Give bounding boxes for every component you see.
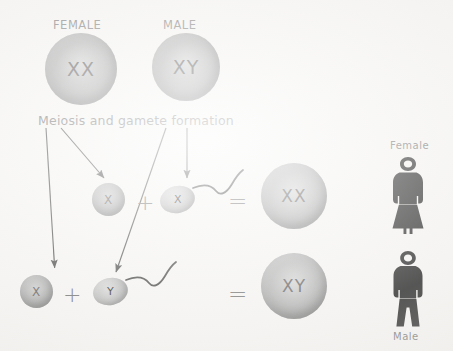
female-parent-chromosomes: XX <box>67 58 95 80</box>
male-outcome-label: Male <box>393 331 419 342</box>
zygote-chromosomes-male: XY <box>282 276 306 296</box>
sperm-cell-row2: Y <box>90 274 130 308</box>
plus-sign-row1: + <box>136 192 154 214</box>
female-outcome-label: Female <box>390 140 429 151</box>
female-parent-label: FEMALE <box>53 18 101 32</box>
male-parent-cell: XY <box>152 33 220 101</box>
egg-chromosome-row2: X <box>32 285 41 299</box>
equals-sign-row1: = <box>228 190 247 213</box>
male-parent-label: MALE <box>163 18 196 32</box>
sperm-chromosome-row1: X <box>174 193 182 206</box>
equals-sign-row2: = <box>228 283 247 306</box>
egg-cell-row2: X <box>20 275 53 308</box>
male-figure-icon <box>385 250 431 330</box>
egg-chromosome-row1: X <box>104 193 113 207</box>
female-parent-cell: XX <box>45 33 117 105</box>
female-figure-icon <box>385 155 431 237</box>
arrow-female-to-egg-bottom <box>40 128 61 268</box>
zygote-cell-female: XX <box>261 163 327 229</box>
sperm-chromosome-row2: Y <box>107 285 114 298</box>
meiosis-label: Meiosis and gamete formation <box>38 113 234 128</box>
plus-sign-row2: + <box>63 284 81 306</box>
male-parent-chromosomes: XY <box>173 56 200 78</box>
sperm-cell-row1: X <box>157 182 197 216</box>
zygote-chromosomes-female: XX <box>281 186 306 206</box>
sex-determination-diagram: FEMALE XX MALE XY Meiosis and gamete for… <box>0 0 453 351</box>
egg-cell-row1: X <box>92 183 125 216</box>
zygote-cell-male: XY <box>261 253 327 319</box>
arrow-female-to-egg-top <box>61 128 104 178</box>
